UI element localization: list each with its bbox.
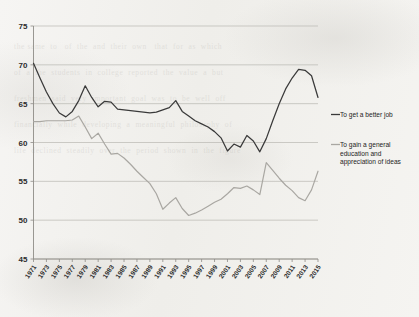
- x-tick-label: 1995: [179, 263, 193, 279]
- x-axis-labels: 1971197319751977197919811983198519871989…: [23, 263, 322, 279]
- x-tick-label: 2001: [217, 263, 231, 279]
- x-tick-label: 2007: [256, 263, 270, 279]
- x-tick-label: 2009: [269, 263, 283, 279]
- x-tick-label: 2003: [230, 263, 244, 279]
- y-tick-label: 65: [19, 100, 28, 109]
- x-tick-label: 1983: [101, 263, 115, 279]
- legend-label: appreciation of ideas: [340, 158, 402, 166]
- x-tick-label: 1997: [191, 263, 205, 279]
- x-tick-label: 2013: [295, 263, 309, 279]
- x-tick-label: 1973: [36, 263, 50, 279]
- legend: To get a better jobTo gain a generaleduc…: [331, 111, 402, 166]
- x-tick-label: 2005: [243, 263, 257, 279]
- x-tick-label: 1977: [62, 263, 76, 279]
- x-tick-label: 1975: [49, 263, 63, 279]
- x-tick-label: 1971: [23, 263, 37, 279]
- y-tick-label: 70: [19, 61, 28, 70]
- legend-label: To gain a general: [340, 141, 391, 149]
- y-tick-label: 60: [19, 139, 28, 148]
- x-tick-label: 1979: [75, 263, 89, 279]
- x-tick-label: 2011: [282, 263, 296, 279]
- x-tick-label: 1987: [127, 263, 141, 279]
- x-tick-label: 1989: [140, 263, 154, 279]
- y-tick-label: 55: [19, 177, 28, 186]
- x-tick-label: 1993: [166, 263, 180, 279]
- series-line-to-get-a-better-job: [34, 63, 319, 152]
- x-tick-label: 1985: [114, 263, 128, 279]
- legend-item-to-get-a-better-job: To get a better job: [331, 111, 393, 119]
- legend-item-to-gain-a-general-education: To gain a generaleducation andappreciati…: [331, 141, 402, 166]
- x-tick-label: 1981: [88, 263, 102, 279]
- y-tick-label: 50: [19, 216, 28, 225]
- series-line-to-gain-a-general-education: [34, 116, 319, 215]
- x-tick-label: 1991: [153, 263, 167, 279]
- y-axis-labels: 45505560657075: [19, 22, 28, 264]
- x-tick-label: 2015: [308, 263, 322, 279]
- legend-label: To get a better job: [340, 111, 393, 119]
- x-axis-ticks: [34, 259, 319, 262]
- y-tick-label: 45: [19, 255, 28, 264]
- legend-label: education and: [340, 150, 382, 157]
- line-chart: 45505560657075 1971197319751977197919811…: [0, 0, 419, 317]
- x-tick-label: 1999: [204, 263, 218, 279]
- y-tick-label: 75: [19, 22, 28, 31]
- gridlines: [34, 26, 319, 259]
